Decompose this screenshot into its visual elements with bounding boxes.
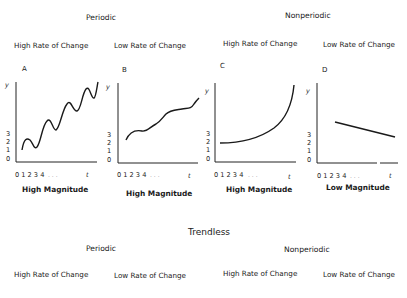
y-tick-0-a: 0 bbox=[6, 155, 10, 163]
y-axis-label-c: y bbox=[204, 87, 209, 95]
y-tick-1-c: 1 bbox=[206, 146, 210, 154]
y-axis-label-a: y bbox=[4, 81, 9, 89]
y-tick-2-c: 2 bbox=[206, 138, 210, 146]
bottom-rate-label-1: High Rate of Change bbox=[14, 270, 88, 279]
bottom-rate-label-3: High Rate of Change bbox=[223, 269, 297, 278]
x-axis-label-c: t bbox=[288, 173, 291, 181]
x-ticks-d: 0 1 2 3 4 bbox=[317, 172, 346, 180]
graph-c: y 3 2 1 0 0 1 2 3 4 . . . t bbox=[204, 83, 296, 181]
bottom-rate-label-4: Low Rate of Change bbox=[323, 270, 395, 279]
trendless-title: Trendless bbox=[188, 227, 230, 237]
magnitude-label-d: Low Magnitude bbox=[326, 183, 390, 192]
x-axis-label-b: t bbox=[188, 172, 191, 180]
x-ellipsis-a: . . . bbox=[48, 171, 58, 178]
x-ellipsis-d: . . . bbox=[350, 172, 360, 179]
y-tick-0-d: 0 bbox=[307, 156, 311, 164]
y-tick-0-b: 0 bbox=[107, 156, 111, 164]
magnitude-label-c: High Magnitude bbox=[226, 185, 292, 194]
y-axis-label-b: y bbox=[105, 83, 110, 91]
y-tick-3-b: 3 bbox=[107, 131, 111, 139]
x-ellipsis-b: . . . bbox=[150, 171, 160, 178]
y-axis-label-d: y bbox=[305, 87, 310, 95]
graph-b: y 3 2 1 0 0 1 2 3 4 . . . t bbox=[105, 83, 199, 180]
y-tick-3-d: 3 bbox=[307, 131, 311, 139]
graph-a: y 3 2 1 0 0 1 2 3 4 . . . t bbox=[4, 81, 98, 179]
y-tick-1-a: 1 bbox=[6, 146, 10, 154]
x-axis-label-d: t bbox=[389, 172, 392, 180]
x-axis-label-a: t bbox=[86, 171, 89, 179]
curve-d bbox=[335, 122, 395, 137]
y-tick-2-a: 2 bbox=[6, 138, 10, 146]
y-tick-3-a: 3 bbox=[6, 130, 10, 138]
x-ellipsis-c: . . . bbox=[248, 171, 258, 178]
bottom-periodic-header: Periodic bbox=[86, 244, 116, 253]
graph-d: y 3 2 1 0 0 1 2 3 4 . . . t bbox=[305, 83, 398, 180]
curve-a bbox=[22, 82, 98, 150]
y-tick-0-c: 0 bbox=[206, 155, 210, 163]
magnitude-label-a: High Magnitude bbox=[22, 185, 88, 194]
bottom-nonperiodic-header: Nonperiodic bbox=[284, 245, 330, 254]
x-ticks-a: 0 1 2 3 4 bbox=[15, 171, 44, 179]
x-ticks-c: 0 1 2 3 4 bbox=[214, 171, 243, 179]
y-tick-3-c: 3 bbox=[206, 130, 210, 138]
bottom-rate-label-2: Low Rate of Change bbox=[114, 271, 186, 280]
curve-c bbox=[220, 85, 294, 143]
graphs: y 3 2 1 0 0 1 2 3 4 . . . t y 3 2 1 0 0 … bbox=[0, 0, 407, 210]
curve-b bbox=[126, 98, 199, 140]
y-tick-2-d: 2 bbox=[307, 139, 311, 147]
y-tick-2-b: 2 bbox=[107, 139, 111, 147]
x-ticks-b: 0 1 2 3 4 bbox=[117, 171, 146, 179]
magnitude-label-b: High Magnitude bbox=[126, 189, 192, 198]
y-tick-1-d: 1 bbox=[307, 147, 311, 155]
y-tick-1-b: 1 bbox=[107, 147, 111, 155]
